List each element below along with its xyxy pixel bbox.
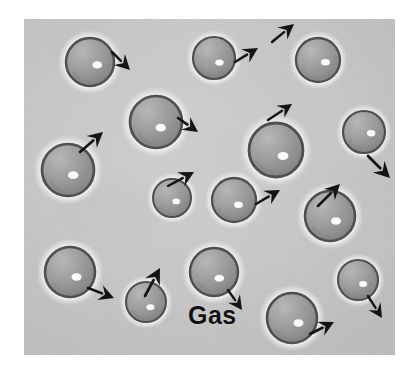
particle-9 [205, 171, 264, 230]
particle-body [130, 96, 182, 148]
photo-frame: Gas [24, 19, 395, 355]
particle-highlight [92, 61, 102, 68]
particle-highlight [214, 275, 224, 282]
particle-body [66, 38, 114, 86]
particle-highlight [172, 199, 180, 205]
particle-3 [289, 31, 348, 90]
particle-14 [259, 285, 326, 352]
particle-7 [33, 135, 103, 205]
particle-body [45, 247, 95, 297]
particle-highlight [367, 130, 375, 136]
gas-state-label: Gas [188, 303, 237, 328]
particle-highlight [146, 304, 154, 310]
particle-4 [121, 87, 191, 157]
particle-highlight [68, 171, 78, 179]
particle-1 [58, 30, 122, 94]
particle-11 [37, 239, 104, 306]
particle-body [267, 293, 317, 343]
particle-highlight [331, 217, 341, 225]
particle-body [305, 191, 355, 241]
particle-15 [331, 253, 385, 307]
particle-body [338, 260, 378, 300]
particle-13 [182, 240, 246, 304]
particle-5 [240, 114, 312, 186]
particle-2 [186, 30, 242, 86]
particle-body [212, 178, 256, 222]
particle-body [190, 248, 238, 296]
particle-highlight [155, 124, 165, 132]
particle-body [193, 37, 235, 79]
particle-body [42, 144, 94, 196]
particle-body [343, 111, 385, 153]
particle-highlight [215, 59, 223, 65]
particle-highlight [321, 59, 330, 66]
particle-highlight [359, 281, 367, 287]
particle-body [249, 123, 303, 177]
particle-highlight [234, 202, 243, 209]
particle-8 [147, 173, 198, 224]
particle-highlight [278, 152, 289, 160]
particle-highlight [72, 273, 82, 281]
particle-12 [119, 275, 173, 329]
particle-body [126, 282, 166, 322]
particle-highlight [294, 319, 304, 327]
particle-6 [336, 104, 392, 160]
gas-state-figure: Gas [0, 0, 414, 370]
particle-body [296, 38, 340, 82]
